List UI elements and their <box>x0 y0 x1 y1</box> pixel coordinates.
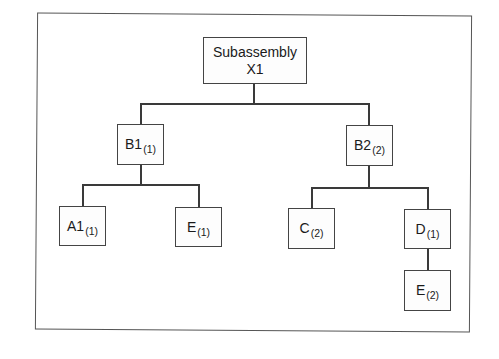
connector-to-c2 <box>311 187 313 208</box>
node-d1-name: D <box>416 221 426 238</box>
node-e1-name: E <box>187 219 196 236</box>
connector-b2-stem <box>368 166 370 188</box>
node-c2-qty: (2) <box>311 225 324 242</box>
root-label-line2: X1 <box>246 61 263 78</box>
connector-to-d1 <box>427 187 429 209</box>
node-e2-name: E <box>416 282 425 299</box>
node-b1-name: B1 <box>125 136 142 153</box>
node-d1: D(1) <box>404 209 451 249</box>
root-label-line1: Subassembly <box>213 44 297 61</box>
node-c2: C(2) <box>288 208 335 249</box>
node-b2-qty: (2) <box>372 142 385 159</box>
node-c2-name: C <box>300 220 310 237</box>
node-b2: B2(2) <box>346 125 393 166</box>
connector-b1-stem <box>140 165 142 185</box>
node-e2-qty: (2) <box>426 287 439 304</box>
connector-root-stem <box>253 84 255 104</box>
node-e2: E(2) <box>404 270 451 311</box>
node-e1: E(1) <box>175 207 222 247</box>
connector-to-b2 <box>368 103 370 125</box>
node-a1-qty: (1) <box>85 223 98 240</box>
connector-d1-to-e2 <box>427 249 429 270</box>
connector-to-e1 <box>198 184 200 207</box>
node-a1: A1(1) <box>59 206 106 246</box>
node-e1-qty: (1) <box>197 224 210 241</box>
connector-b1-children <box>82 184 199 186</box>
connector-to-a1 <box>82 184 84 206</box>
connector-level1 <box>140 103 370 105</box>
node-a1-name: A1 <box>67 218 84 235</box>
connector-to-b1 <box>140 103 142 124</box>
node-b2-name: B2 <box>354 137 371 154</box>
node-subassembly-x1: Subassembly X1 <box>203 37 307 84</box>
node-b1-qty: (1) <box>143 141 156 158</box>
node-b1: B1(1) <box>117 124 164 165</box>
node-d1-qty: (1) <box>427 226 440 243</box>
connector-b2-children <box>311 187 428 189</box>
